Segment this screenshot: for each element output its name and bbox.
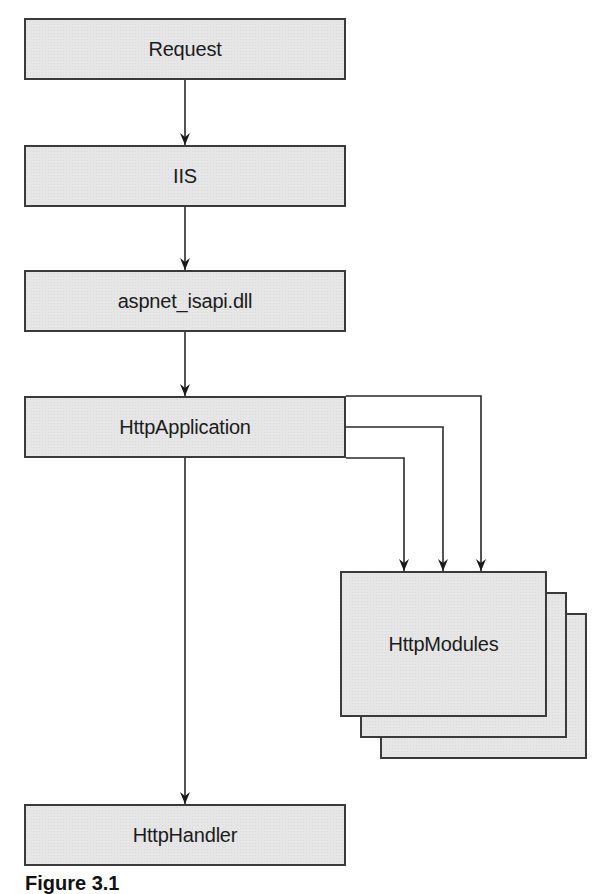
node-request: Request	[24, 18, 346, 80]
node-aspnet-isapi: aspnet_isapi.dll	[24, 270, 346, 332]
node-http-application-label: HttpApplication	[119, 416, 251, 439]
arrow-httpapplication-to-modules-1	[346, 396, 481, 571]
figure-caption: Figure 3.1	[25, 873, 119, 893]
node-http-handler-label: HttpHandler	[133, 824, 238, 847]
node-aspnet-isapi-label: aspnet_isapi.dll	[118, 290, 253, 313]
node-http-modules-label: HttpModules	[388, 633, 498, 656]
arrow-httpapplication-to-modules-2	[346, 427, 443, 571]
node-iis-label: IIS	[173, 165, 197, 188]
node-http-application: HttpApplication	[24, 396, 346, 458]
node-request-label: Request	[148, 38, 221, 61]
arrow-httpapplication-to-modules-3	[346, 458, 404, 571]
node-iis: IIS	[24, 145, 346, 207]
node-http-modules: HttpModules	[340, 571, 547, 717]
node-http-handler: HttpHandler	[24, 804, 346, 866]
